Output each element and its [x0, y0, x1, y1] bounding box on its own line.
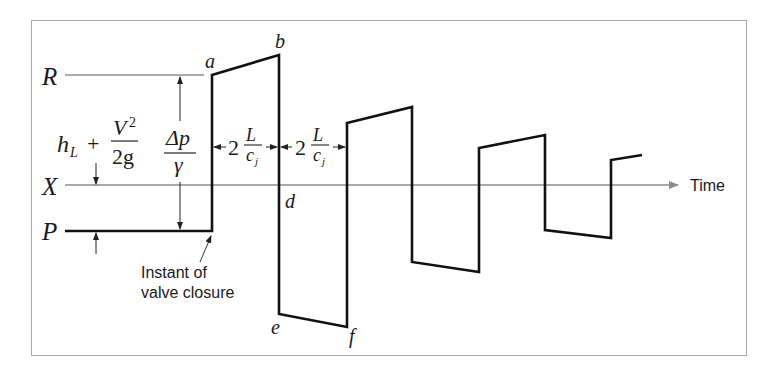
head-loss-expression: h L + V 2 2g [57, 115, 138, 169]
pressure-rise-num: Δp [165, 125, 190, 150]
pressure-rise-expression: Δp γ [164, 125, 196, 177]
interval2-expression: 2 L c j [295, 125, 329, 167]
valve-closure-pointer [200, 236, 211, 262]
head-loss-h: h [57, 131, 69, 157]
head-loss-num: V [113, 115, 129, 140]
interval2-num: L [312, 125, 323, 145]
interval1-expression: 2 L c j [228, 125, 262, 167]
point-b: b [275, 30, 285, 52]
head-loss-den: 2g [112, 144, 134, 169]
time-axis-label: Time [690, 177, 725, 194]
interval2-coef: 2 [295, 135, 306, 160]
head-loss-sub: L [69, 145, 78, 160]
annotation-line1: Instant of [141, 264, 207, 281]
point-a: a [205, 50, 215, 72]
label-r: R [41, 63, 57, 90]
annotation-line2: valve closure [141, 284, 234, 301]
head-loss-sup: 2 [129, 115, 136, 130]
pressure-rise-den: γ [174, 152, 184, 177]
point-e: e [271, 316, 280, 338]
point-f: f [349, 325, 357, 348]
interval1-coef: 2 [228, 135, 239, 160]
label-x: X [41, 173, 59, 200]
pressure-time-diagram: R X P a b d e f h L + V 2 2g Δp γ 2 L c … [0, 0, 769, 376]
label-p: P [41, 218, 57, 245]
interval1-num: L [245, 125, 256, 145]
point-d: d [285, 190, 296, 212]
interval2-den: c [313, 145, 321, 165]
head-loss-plus: + [87, 131, 99, 156]
interval1-den: c [246, 145, 254, 165]
